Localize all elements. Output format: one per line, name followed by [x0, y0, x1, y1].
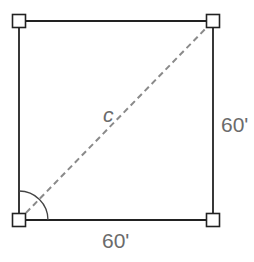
vertex-bottom-right — [207, 214, 220, 227]
right-side-label: 60' — [221, 114, 248, 135]
diagonal-label: c — [103, 104, 114, 125]
vertex-top-left — [13, 15, 26, 28]
bottom-side-label: 60' — [102, 230, 129, 251]
diagonal-line — [19, 21, 213, 220]
vertex-top-right — [207, 15, 220, 28]
vertex-bottom-left — [13, 214, 26, 227]
square-diagram — [0, 0, 254, 262]
